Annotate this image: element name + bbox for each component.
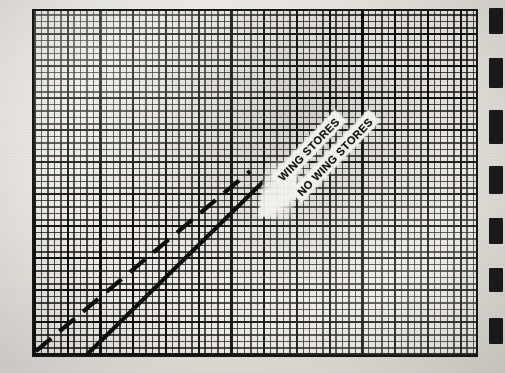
data-curves xyxy=(34,11,476,355)
edge-fragment-6 xyxy=(489,318,503,344)
edge-fragment-4 xyxy=(489,218,503,244)
right-edge-fragments xyxy=(489,0,505,373)
edge-fragment-1 xyxy=(489,58,503,88)
edge-fragment-3 xyxy=(489,166,503,194)
scanned-page: WING STORES NO WING STORES xyxy=(0,0,505,373)
series-no-wing-stores-line xyxy=(88,181,264,354)
plot-area: WING STORES NO WING STORES xyxy=(32,9,478,357)
series-wing-stores-line xyxy=(36,171,250,351)
edge-fragment-2 xyxy=(489,110,503,144)
edge-fragment-5 xyxy=(489,268,503,292)
edge-fragment-0 xyxy=(489,8,503,34)
